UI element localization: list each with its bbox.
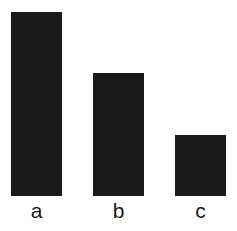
category-label-c: c [175,199,226,223]
bar-a [11,12,62,196]
bar-b [93,73,144,196]
bar-c [175,135,226,196]
bar-chart: a b c [0,0,237,231]
category-label-b: b [93,199,144,223]
category-label-a: a [11,199,62,223]
